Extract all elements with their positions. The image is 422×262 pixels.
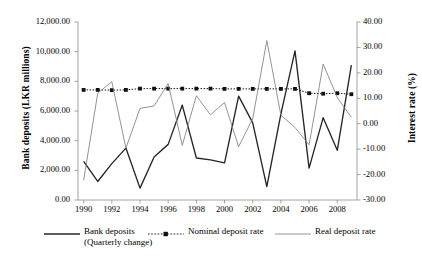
y-axis-left-ticklabel: 8,000.00 [6, 76, 70, 85]
legend-sublabel-bank-deposits: (Quarterly change) [84, 237, 152, 248]
y-axis-left-ticklabel: 0.00 [6, 195, 70, 204]
series-marker-1 [265, 87, 269, 91]
series-marker-1 [293, 87, 297, 91]
series-marker-1 [96, 88, 100, 92]
series-marker-1 [237, 87, 241, 91]
series-marker-1 [180, 87, 184, 91]
y-axis-left-ticklabel: 2,000.00 [6, 165, 70, 174]
y-axis-left-ticklabel: 4,000.00 [6, 136, 70, 145]
series-marker-1 [209, 87, 213, 91]
series-line-0 [84, 51, 352, 188]
legend-swatch-solid-line [44, 231, 80, 237]
series-marker-1 [194, 87, 198, 91]
series-marker-1 [251, 87, 255, 91]
y-axis-right-ticklabel: -10.00 [363, 144, 422, 153]
series-marker-1 [349, 92, 353, 96]
y-axis-left-ticklabel: 12,000.00 [6, 17, 70, 26]
series-marker-1 [307, 91, 311, 95]
y-axis-left-ticklabel: 6,000.00 [6, 106, 70, 115]
y-axis-right-ticklabel: -30.00 [363, 195, 422, 204]
y-axis-right-ticklabel: 40.00 [363, 17, 422, 26]
y-axis-left-ticklabel: 10,000.00 [6, 47, 70, 56]
legend-label-bank-deposits: Bank deposits [84, 226, 135, 237]
legend-label-nominal-deposit-rate: Nominal deposit rate [188, 226, 263, 237]
series-marker-1 [152, 87, 156, 91]
series-marker-1 [223, 87, 227, 91]
y-axis-right-ticklabel: 30.00 [363, 42, 422, 51]
series-marker-1 [321, 92, 325, 96]
series-line-1 [84, 89, 352, 95]
series-marker-1 [138, 87, 142, 91]
y-axis-right-ticklabel: 0.00 [363, 119, 422, 128]
x-axis-ticklabel: 2008 [317, 205, 357, 214]
series-marker-1 [82, 88, 86, 92]
legend-swatch-thin-gray-line [275, 231, 311, 237]
y-axis-right-ticklabel: 10.00 [363, 93, 422, 102]
series-marker-1 [124, 88, 128, 92]
series-marker-1 [279, 87, 283, 91]
chart-legend: Bank deposits (Quarterly change) Nominal… [0, 222, 417, 262]
legend-label-real-deposit-rate: Real deposit rate [315, 226, 375, 237]
y-axis-right-ticklabel: 20.00 [363, 68, 422, 77]
legend-swatch-dotted-line-with-markers [148, 231, 184, 237]
y-axis-right-ticklabel: -20.00 [363, 170, 422, 179]
